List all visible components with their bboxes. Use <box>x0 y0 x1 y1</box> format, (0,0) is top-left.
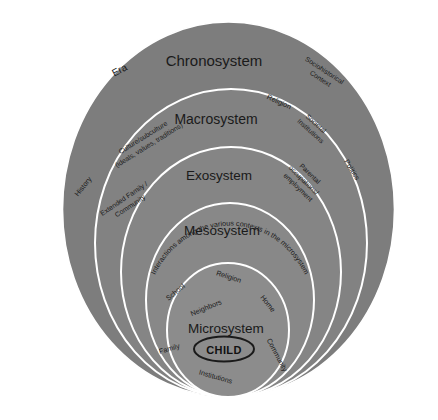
diagram-canvas: Chronosystem Macrosystem Exosystem Mesos… <box>0 0 438 420</box>
heading-exosystem: Exosystem <box>186 168 252 183</box>
heading-macrosystem: Macrosystem <box>174 111 257 127</box>
ecological-systems-diagram: Chronosystem Macrosystem Exosystem Mesos… <box>0 0 438 420</box>
heading-microsystem: Microsystem <box>188 321 264 336</box>
child-node-label: CHILD <box>206 344 242 356</box>
heading-chronosystem: Chronosystem <box>166 52 263 69</box>
